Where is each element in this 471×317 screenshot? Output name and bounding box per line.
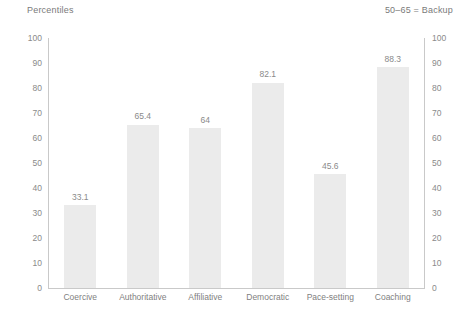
y-tick-left-10: 10 [33,259,42,268]
chart-title: Percentiles [27,5,74,15]
y-tick-right-60: 60 [432,134,441,143]
bar-value-label: 88.3 [384,55,401,64]
y-tick-left-80: 80 [33,84,42,93]
y-axis-right-ticks: 0102030405060708090100 [432,38,456,288]
y-tick-right-20: 20 [432,234,441,243]
y-tick-right-0: 0 [432,284,437,293]
y-tick-right-90: 90 [432,59,441,68]
bar[interactable] [252,83,284,288]
bar-group: 82.1 [246,38,290,288]
x-tick-label: Coaching [364,293,422,302]
x-tick-label: Affiliative [176,293,234,302]
y-tick-left-20: 20 [33,234,42,243]
y-tick-left-60: 60 [33,134,42,143]
x-tick-label: Democratic [239,293,297,302]
x-tick-label: Coercive [51,293,109,302]
y-tick-right-30: 30 [432,209,441,218]
y-axis-right-line [424,38,425,288]
y-tick-right-10: 10 [432,259,441,268]
bar[interactable] [377,67,409,288]
y-tick-left-40: 40 [33,184,42,193]
x-axis-category-labels: CoerciveAuthoritativeAffiliativeDemocrat… [49,293,424,311]
bar-value-label: 45.6 [322,162,339,171]
bar-value-label: 64 [201,116,210,125]
bars-container: 33.165.46482.145.688.3 [49,38,424,288]
y-tick-right-50: 50 [432,159,441,168]
bar[interactable] [64,205,96,288]
bar-group: 45.6 [308,38,352,288]
x-tick-label: Authoritative [114,293,172,302]
y-tick-right-80: 80 [432,84,441,93]
bar-group: 64 [183,38,227,288]
percentiles-bar-chart: Percentiles 50–65 = Backup 0102030405060… [0,0,471,317]
y-tick-left-30: 30 [33,209,42,218]
bar-group: 65.4 [121,38,165,288]
y-tick-right-40: 40 [432,184,441,193]
bar-group: 88.3 [371,38,415,288]
y-tick-right-100: 100 [432,34,446,43]
backup-range-note: 50–65 = Backup [385,5,453,15]
bar-value-label: 65.4 [134,112,151,121]
y-tick-left-90: 90 [33,59,42,68]
y-tick-right-70: 70 [432,109,441,118]
y-tick-left-100: 100 [28,34,42,43]
bar-value-label: 33.1 [72,193,89,202]
x-tick-label: Pace-setting [301,293,359,302]
bar-group: 33.1 [58,38,102,288]
bar[interactable] [189,128,221,288]
y-tick-left-0: 0 [37,284,42,293]
y-axis-left-ticks: 0102030405060708090100 [18,38,42,288]
y-tick-left-50: 50 [33,159,42,168]
y-tick-left-70: 70 [33,109,42,118]
bar[interactable] [127,125,159,289]
x-axis-line [48,288,425,289]
bar[interactable] [314,174,346,288]
bar-value-label: 82.1 [259,70,276,79]
